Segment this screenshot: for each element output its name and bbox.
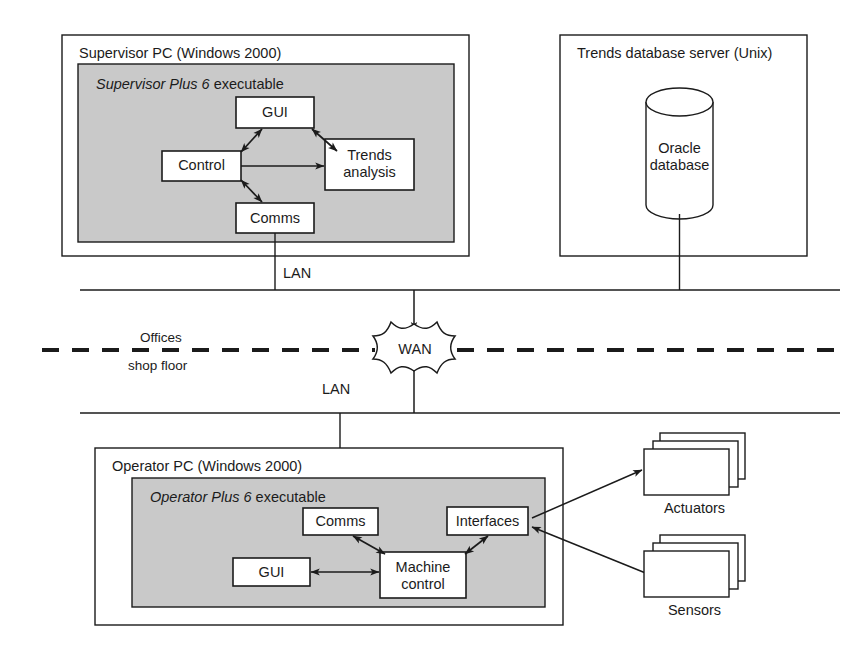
field-device-sensors-stack	[644, 535, 745, 597]
oracle-database-line-1: Oracle	[658, 140, 701, 156]
lan-label-bottom: LAN	[322, 381, 350, 397]
node-label-trends-analysis: Trendsanalysis	[325, 147, 414, 181]
operator-pc-title: Operator PC (Windows 2000)	[112, 458, 302, 474]
operator-executable-name: Operator Plus 6	[150, 489, 252, 505]
supervisor-executable-suffix: executable	[210, 76, 284, 92]
actuators-card-front	[644, 449, 729, 495]
node-label-control: Control	[162, 157, 241, 174]
trends-analysis-line-2: analysis	[343, 164, 395, 180]
oracle-database-line-2: database	[650, 157, 710, 173]
node-label-comms-operator: Comms	[303, 513, 378, 530]
node-label-comms-supervisor: Comms	[236, 210, 314, 227]
operator-executable-suffix: executable	[252, 489, 326, 505]
supervisor-executable-name: Supervisor Plus 6	[96, 76, 210, 92]
db-cylinder-top-ellipse	[646, 88, 713, 116]
trends-analysis-line-1: Trends	[347, 147, 392, 163]
field-device-label-sensors: Sensors	[644, 602, 745, 618]
node-label-gui-supervisor: GUI	[236, 104, 314, 121]
boundary-label-shop-floor: shop floor	[128, 358, 187, 373]
lan-label-top: LAN	[283, 265, 311, 281]
boundary-label-offices: Offices	[140, 330, 182, 345]
node-label-machine-control: Machinecontrol	[380, 559, 466, 593]
field-device-label-actuators: Actuators	[644, 500, 745, 516]
diagram-canvas: Supervisor PC (Windows 2000) Supervisor …	[0, 0, 852, 657]
field-device-actuators-stack	[644, 433, 745, 495]
sensors-card-front	[644, 551, 729, 597]
wan-label: WAN	[389, 341, 441, 357]
machine-control-line-2: control	[401, 576, 445, 592]
node-label-gui-operator: GUI	[233, 564, 310, 581]
supervisor-executable-label: Supervisor Plus 6 executable	[96, 76, 284, 92]
node-label-interfaces: Interfaces	[447, 513, 528, 530]
zone-operator-pc	[95, 448, 648, 625]
supervisor-pc-title: Supervisor PC (Windows 2000)	[79, 45, 281, 61]
machine-control-line-1: Machine	[396, 559, 451, 575]
operator-executable-label: Operator Plus 6 executable	[150, 489, 326, 505]
node-label-oracle-database: Oracledatabase	[635, 140, 724, 174]
trends-db-server-title: Trends database server (Unix)	[577, 45, 772, 61]
